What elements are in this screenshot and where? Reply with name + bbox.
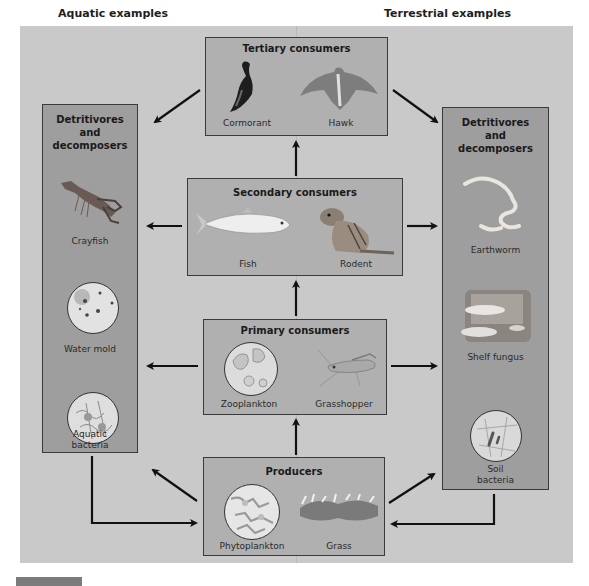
energy-flow-arrows (0, 0, 589, 586)
figure-number-tag (16, 577, 82, 586)
